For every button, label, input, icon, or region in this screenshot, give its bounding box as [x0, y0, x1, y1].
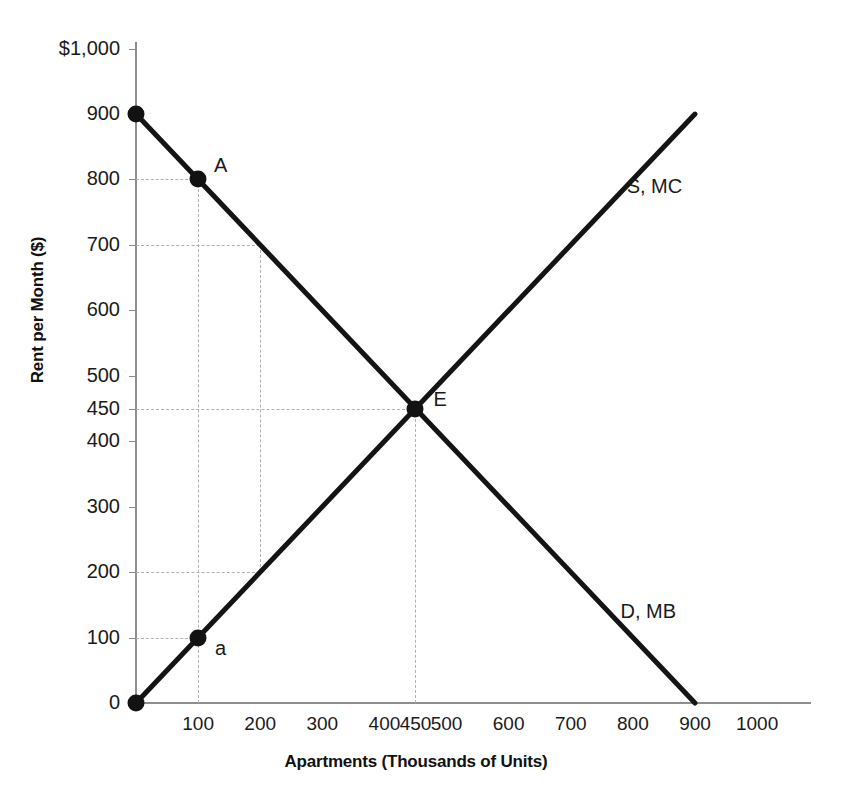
y-tick-label: 700	[87, 234, 120, 254]
x-tick-label: 200	[244, 714, 276, 733]
data-point	[128, 106, 145, 123]
x-tick-label: 500	[431, 714, 463, 733]
y-axis-line	[135, 42, 137, 705]
data-point-label-E: E	[433, 389, 446, 409]
y-tick-label: 300	[87, 496, 120, 516]
y-tick-label: $1,000	[59, 38, 120, 58]
data-point-a	[190, 629, 207, 646]
y-tick-mark	[129, 245, 136, 246]
y-tick-mark	[129, 441, 136, 442]
chart-canvas: Rent per Month ($) Apartments (Thousands…	[0, 0, 849, 804]
y-tick-mark	[129, 310, 136, 311]
y-tick-label: 800	[87, 168, 120, 188]
x-tick-label: 450	[400, 714, 432, 733]
y-tick-label: 0	[109, 692, 120, 712]
y-axis-title: Rent per Month ($)	[28, 210, 48, 410]
y-tick-label: 450	[87, 398, 120, 418]
y-tick-mark	[129, 49, 136, 50]
x-tick-label: 300	[306, 714, 338, 733]
x-tick-label: 800	[617, 714, 649, 733]
y-tick-label: 400	[87, 430, 120, 450]
y-tick-label: 100	[87, 627, 120, 647]
y-tick-mark	[129, 638, 136, 639]
guide-line-vertical	[415, 409, 416, 703]
x-tick-label: 900	[679, 714, 711, 733]
data-point-A	[190, 171, 207, 188]
guide-line-horizontal	[136, 409, 415, 410]
y-tick-mark	[129, 179, 136, 180]
data-point-E	[407, 400, 424, 417]
x-axis-title: Apartments (Thousands of Units)	[136, 752, 696, 772]
guide-line-vertical	[198, 179, 199, 703]
data-point	[128, 695, 145, 712]
y-tick-label: 500	[87, 365, 120, 385]
curve-label-s-mc: S, MC	[627, 176, 683, 196]
guide-line-vertical	[260, 245, 261, 572]
y-tick-label: 900	[87, 103, 120, 123]
x-tick-label: 400	[369, 714, 401, 733]
x-tick-label: 700	[555, 714, 587, 733]
y-tick-mark	[129, 507, 136, 508]
y-tick-label: 600	[87, 299, 120, 319]
x-tick-label: 100	[182, 714, 214, 733]
y-tick-mark	[129, 409, 136, 410]
curve-layer	[0, 0, 849, 804]
data-point-label-a: a	[215, 638, 226, 658]
y-tick-label: 200	[87, 561, 120, 581]
curve-label-d-mb: D, MB	[620, 601, 676, 621]
x-tick-label: 600	[493, 714, 525, 733]
y-tick-mark	[129, 376, 136, 377]
y-tick-mark	[129, 572, 136, 573]
x-tick-label: 1000	[736, 714, 778, 733]
x-axis-line	[135, 702, 811, 704]
data-point-label-A: A	[214, 155, 227, 175]
